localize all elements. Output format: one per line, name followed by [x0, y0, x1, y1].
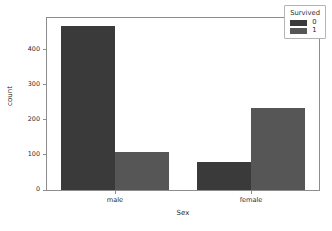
x-axis-label: Sex [46, 209, 320, 217]
x-tick-mark [115, 191, 116, 194]
y-tick-label: 400 [28, 45, 40, 54]
legend-swatch-icon [290, 20, 307, 26]
y-tick-label: 0 [36, 185, 40, 194]
y-tick-label: 200 [28, 115, 40, 124]
legend-swatch-icon [290, 28, 307, 34]
legend-title: Survived [290, 9, 320, 17]
y-tick-mark [43, 119, 46, 120]
y-tick-mark [43, 84, 46, 85]
legend-item-0[interactable]: 0 [290, 19, 320, 26]
bar-female-survived-0 [197, 162, 251, 190]
y-tick-mark [43, 49, 46, 50]
y-tick-mark [43, 154, 46, 155]
x-tick-label: male [107, 196, 123, 204]
x-tick-label: female [240, 196, 263, 204]
bar-female-survived-1 [251, 108, 305, 190]
x-tick-mark [251, 191, 252, 194]
bar-male-survived-0 [61, 26, 115, 190]
x-axis: malefemale [46, 191, 320, 211]
legend-item-1[interactable]: 1 [290, 27, 320, 34]
legend-entries: 01 [290, 19, 320, 34]
legend-item-label: 0 [312, 19, 316, 26]
bar-male-survived-1 [115, 152, 169, 190]
y-tick-label: 100 [28, 150, 40, 159]
plot-area [46, 17, 320, 191]
legend: Survived 01 [284, 5, 326, 39]
legend-item-label: 1 [312, 27, 316, 34]
y-axis-label: count [6, 56, 14, 136]
y-tick-label: 300 [28, 80, 40, 89]
figure-canvas: 0100200300400 malefemale Sex count Survi… [0, 0, 332, 231]
